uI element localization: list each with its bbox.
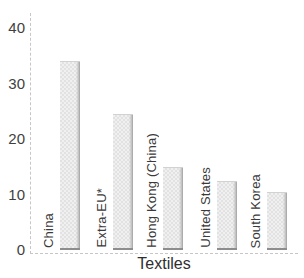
bar [217, 181, 237, 250]
y-tick-label: 40 [0, 19, 25, 37]
y-tick-label: 30 [0, 75, 25, 93]
y-tick-label: 20 [0, 130, 25, 148]
bar [267, 192, 287, 250]
category-label: Extra-EU* [94, 188, 109, 248]
bar [113, 114, 133, 250]
x-axis-title: Textiles [30, 255, 298, 273]
category-label: China [41, 213, 56, 248]
x-axis-line [30, 253, 298, 254]
category-label: Hong Kong (China) [144, 133, 159, 248]
y-tick-label: 10 [0, 186, 25, 204]
bar [163, 167, 183, 250]
y-axis-line [30, 13, 31, 254]
y-tick-label: 0 [0, 241, 25, 259]
category-label: South Korea [248, 174, 263, 248]
category-label: United States [198, 167, 213, 248]
bar-chart: Textiles 010203040ChinaExtra-EU*Hong Kon… [0, 0, 304, 278]
bar [60, 61, 80, 250]
